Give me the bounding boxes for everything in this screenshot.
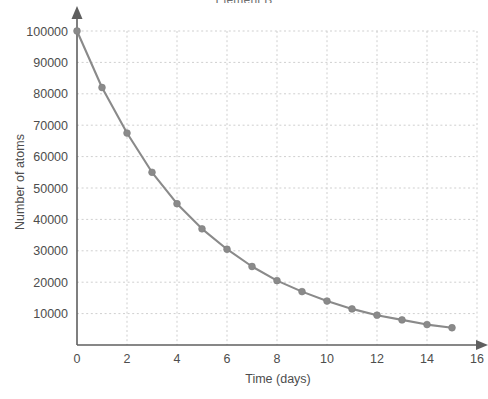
data-point — [299, 288, 306, 295]
y-tick-label: 20000 — [33, 276, 68, 290]
y-tick-label: 90000 — [33, 56, 68, 70]
x-tick-label: 0 — [74, 352, 81, 366]
x-tick-label: 6 — [224, 352, 231, 366]
y-tick-label: 100000 — [26, 25, 68, 39]
x-tick-label: 2 — [124, 352, 131, 366]
data-point — [449, 324, 456, 331]
data-point — [124, 130, 131, 137]
data-point — [99, 84, 106, 91]
x-tick-label: 4 — [174, 352, 181, 366]
data-point — [324, 298, 331, 305]
data-point — [349, 305, 356, 312]
y-tick-label: 10000 — [33, 307, 68, 321]
plot-area: 1000020000300004000050000600007000080000… — [0, 0, 488, 399]
data-point — [424, 321, 431, 328]
x-tick-label: 16 — [470, 352, 484, 366]
y-tick-label: 80000 — [33, 87, 68, 101]
y-tick-label: 60000 — [33, 150, 68, 164]
data-point — [249, 263, 256, 270]
x-axis-arrow-icon — [476, 340, 488, 350]
y-tick-label: 50000 — [33, 182, 68, 196]
data-point — [74, 28, 81, 35]
data-point — [274, 277, 281, 284]
x-axis-title: Time (days) — [245, 372, 311, 386]
decay-chart: Element B 100002000030000400005000060000… — [0, 0, 488, 399]
y-axis-tick-labels: 1000020000300004000050000600007000080000… — [26, 25, 68, 322]
y-axis-arrow-icon — [72, 6, 83, 19]
y-tick-label: 70000 — [33, 119, 68, 133]
x-tick-label: 8 — [274, 352, 281, 366]
data-point — [374, 312, 381, 319]
data-point — [399, 316, 406, 323]
x-tick-label: 10 — [320, 352, 334, 366]
y-tick-label: 40000 — [33, 213, 68, 227]
y-axis-title: Number of atoms — [13, 134, 27, 230]
x-tick-label: 12 — [370, 352, 384, 366]
data-point — [224, 246, 231, 253]
x-tick-label: 14 — [420, 352, 434, 366]
y-tick-label: 30000 — [33, 244, 68, 258]
axes — [72, 6, 488, 350]
gridlines — [77, 31, 477, 345]
x-axis-tick-labels: 0246810121416 — [74, 352, 484, 366]
decay-curve — [77, 31, 452, 328]
data-point — [199, 225, 206, 232]
data-point — [174, 200, 181, 207]
data-point-markers — [74, 28, 456, 332]
data-point — [149, 169, 156, 176]
